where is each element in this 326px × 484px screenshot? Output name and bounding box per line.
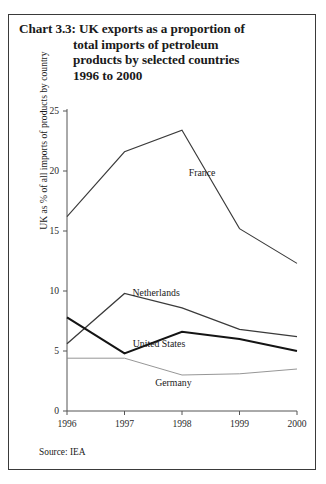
series-label-germany: Germany bbox=[155, 377, 192, 388]
series-line-germany bbox=[67, 358, 297, 375]
y-tick-label: 5 bbox=[54, 345, 59, 356]
x-tick-label: 1999 bbox=[230, 418, 249, 429]
source-note: Source: IEA bbox=[39, 447, 86, 457]
series-label-group: FranceNetherlandsUnited StatesGermany bbox=[132, 167, 216, 389]
plot-area: 0510152025 19961997199819992000 FranceNe… bbox=[9, 15, 317, 471]
series-line-france bbox=[67, 130, 297, 263]
x-tick-label: 2000 bbox=[287, 418, 306, 429]
series-label-united-states: United States bbox=[133, 338, 186, 349]
chart-figure: Chart 3.3: UK exports as a proportion of… bbox=[8, 14, 316, 470]
y-axis-ticks: 0510152025 bbox=[49, 105, 67, 416]
y-tick-label: 10 bbox=[49, 285, 59, 296]
x-tick-label: 1998 bbox=[172, 418, 191, 429]
series-label-netherlands: Netherlands bbox=[132, 287, 180, 298]
y-tick-label: 15 bbox=[49, 225, 59, 236]
y-tick-label: 25 bbox=[49, 105, 59, 116]
chart-axes bbox=[67, 109, 297, 411]
line-chart-canvas: 0510152025 19961997199819992000 FranceNe… bbox=[9, 15, 317, 471]
series-line-netherlands bbox=[67, 293, 297, 343]
x-tick-label: 1997 bbox=[115, 418, 134, 429]
x-tick-label: 1996 bbox=[57, 418, 76, 429]
y-tick-label: 0 bbox=[54, 405, 59, 416]
y-tick-label: 20 bbox=[49, 165, 59, 176]
series-label-france: France bbox=[189, 167, 216, 178]
x-axis-ticks: 19961997199819992000 bbox=[57, 411, 306, 429]
